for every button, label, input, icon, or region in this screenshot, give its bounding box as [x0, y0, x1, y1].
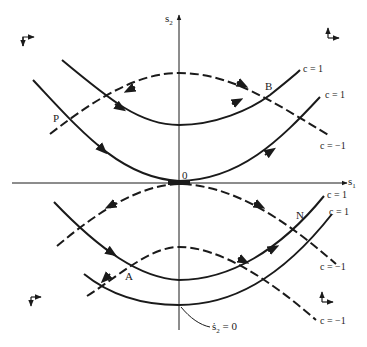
point-n-label: N — [296, 210, 304, 221]
point-b-label: B — [265, 81, 272, 92]
s2-axis-label: s2 — [165, 13, 173, 24]
curve-label-upper-cm1: c = −1 — [320, 141, 346, 151]
lower-inner-trajectory — [54, 196, 324, 280]
lower-dashed-upper-trajectory — [57, 184, 336, 264]
origin-label: 0 — [182, 170, 188, 181]
s2dot-pointer — [181, 307, 210, 327]
switching-direction-right-down-icon — [23, 37, 34, 46]
switching-direction-right-down-icon — [31, 297, 41, 306]
curve-label-upper-c1-a: c = 1 — [303, 64, 323, 74]
point-a-label: A — [125, 271, 133, 282]
switching-direction-up-right-icon — [322, 292, 333, 302]
upper-outer-trajectory — [33, 80, 320, 181]
dashed-trajectories — [50, 73, 336, 320]
axes — [12, 15, 347, 330]
s1-axis-label: s1 — [348, 176, 356, 187]
point-p-label: P — [53, 113, 59, 124]
upper-dashed-trajectory — [50, 73, 330, 136]
curve-label-lower-c1-a: c = 1 — [327, 190, 347, 200]
switching-direction-up-right-icon — [328, 28, 339, 38]
curve-label-upper-c1-b: c = 1 — [325, 90, 345, 100]
s2dot-zero-label: ṡ2 = 0 — [212, 321, 237, 332]
lower-dashed-lower-trajectory — [87, 247, 316, 320]
curve-label-lower-cm1-b: c = −1 — [320, 316, 346, 326]
curve-label-lower-c1-b: c = 1 — [329, 207, 349, 217]
upper-inner-trajectory — [62, 60, 300, 125]
curve-label-lower-cm1-a: c = −1 — [320, 262, 346, 272]
